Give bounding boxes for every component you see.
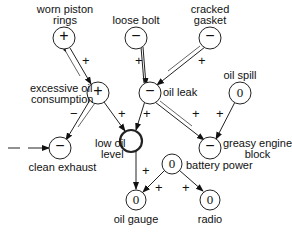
label-cracked-gasket-2: gasket xyxy=(185,15,235,26)
node-oil-spill-sign: 0 xyxy=(230,87,250,98)
label-loose-bolt: loose bolt xyxy=(106,15,166,26)
node-oil-gauge-sign: 0 xyxy=(126,194,146,205)
node-greasy-engine-sign: − xyxy=(200,140,220,151)
node-clean-exhaust-sign: − xyxy=(50,140,70,151)
label-excessive-oil-2: consumption xyxy=(31,94,93,105)
edge-sign-eoc-lol: + xyxy=(118,108,126,119)
node-worn-piston-rings-sign: + xyxy=(54,30,74,41)
label-battery-power: battery power xyxy=(186,160,253,171)
label-worn-piston-rings-2: rings xyxy=(30,15,100,26)
edge-sign-ol-lol: + xyxy=(143,108,151,119)
label-oil-gauge: oil gauge xyxy=(106,214,166,225)
edge-sign-lol-og: + xyxy=(142,165,150,176)
node-cracked-gasket-sign: − xyxy=(200,30,220,41)
edge-sign-os-geb: + xyxy=(216,108,224,119)
edge-sign-wpr-eoc: + xyxy=(82,55,90,66)
node-battery-power-sign: 0 xyxy=(162,158,182,169)
edge-sign-eoc-ce: − xyxy=(70,108,78,119)
edge-sign-bp-radio: + xyxy=(182,182,190,193)
node-radio-sign: 0 xyxy=(200,194,220,205)
label-clean-exhaust: clean exhaust xyxy=(25,162,100,173)
node-oil-leak-sign: − xyxy=(140,85,160,96)
label-oil-spill: oil spill xyxy=(215,70,265,81)
edge-sign-bp-og: + xyxy=(155,182,163,193)
edge-sign-lb-ol: + xyxy=(135,55,143,66)
node-loose-bolt-sign: − xyxy=(126,30,146,41)
edge-sign-cg-ol: + xyxy=(198,55,206,66)
edge-sign-ol-geb: + xyxy=(192,108,200,119)
label-low-oil-2: level xyxy=(101,149,124,160)
label-radio: radio xyxy=(185,214,235,225)
label-oil-leak: oil leak xyxy=(163,87,197,98)
